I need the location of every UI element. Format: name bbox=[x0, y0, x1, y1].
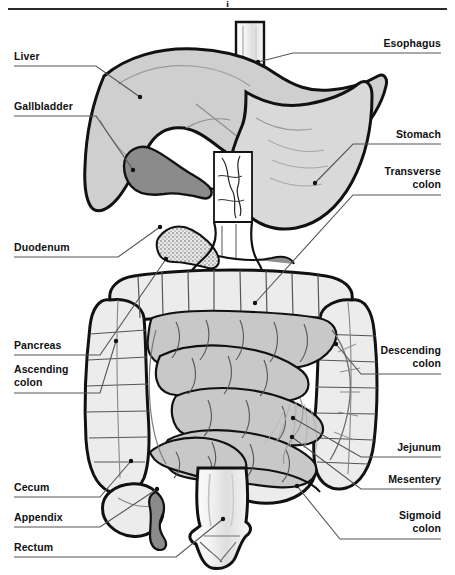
label-transverse-colon: Transverse colon bbox=[385, 165, 441, 190]
pancreas-organ bbox=[157, 227, 294, 269]
appendix-segment bbox=[149, 492, 166, 550]
rectum-organ bbox=[190, 468, 251, 569]
label-appendix: Appendix bbox=[14, 511, 63, 524]
label-descending-colon: Descending colon bbox=[380, 344, 441, 369]
small-intestine-coils bbox=[148, 311, 337, 492]
label-mesentery: Mesentery bbox=[388, 473, 441, 486]
label-gallbladder: Gallbladder bbox=[14, 100, 73, 113]
label-stomach: Stomach bbox=[396, 128, 441, 141]
gallbladder-organ bbox=[124, 147, 228, 199]
digestive-system-illustration bbox=[0, 0, 455, 575]
label-liver: Liver bbox=[14, 50, 40, 63]
digestive-system-figure-page: i bbox=[0, 0, 455, 575]
label-ascending-colon: Ascending colon bbox=[14, 363, 69, 388]
label-rectum: Rectum bbox=[14, 541, 53, 554]
label-sigmoid-colon: Sigmoid colon bbox=[399, 509, 441, 534]
label-duodenum: Duodenum bbox=[14, 241, 70, 254]
label-jejunum: Jejunum bbox=[397, 441, 441, 454]
label-esophagus: Esophagus bbox=[384, 37, 442, 50]
label-pancreas: Pancreas bbox=[14, 339, 62, 352]
leader-esophagus bbox=[256, 53, 441, 64]
label-cecum: Cecum bbox=[14, 481, 50, 494]
